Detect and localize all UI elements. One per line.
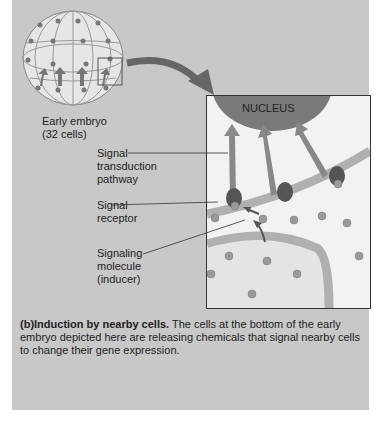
label-signal-transduction: Signal transduction pathway (97, 147, 157, 186)
caption-title: Induction by nearby cells. (34, 318, 169, 330)
label-line: Signal (97, 199, 137, 212)
label-line: pathway (97, 173, 157, 186)
caption-prefix: (b) (20, 318, 34, 330)
label-signal-receptor: Signal receptor (97, 199, 137, 225)
label-line: (inducer) (97, 273, 142, 286)
label-signaling-molecule: Signaling molecule (inducer) (97, 247, 142, 286)
figure-caption: (b)Induction by nearby cells. The cells … (20, 318, 365, 357)
label-line: Signal (97, 147, 157, 160)
label-line: molecule (97, 260, 142, 273)
label-line: Signaling (97, 247, 142, 260)
label-line: receptor (97, 212, 137, 225)
label-line: transduction (97, 160, 157, 173)
leader-lines (0, 0, 379, 423)
